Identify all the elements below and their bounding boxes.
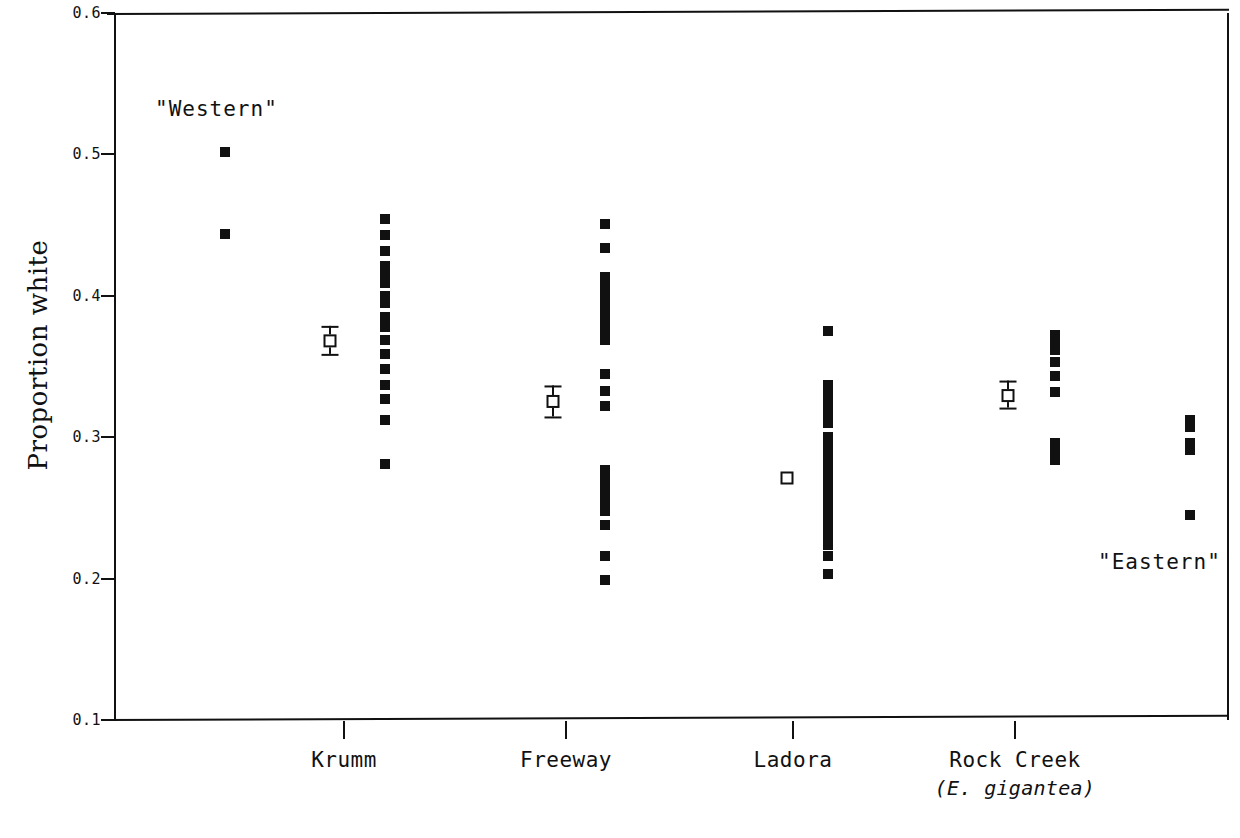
- y-tick-mark: [101, 719, 115, 721]
- x-axis-line: [107, 715, 1229, 721]
- data-point: [380, 459, 390, 469]
- data-point: [600, 369, 610, 379]
- plot-right-border: [1227, 13, 1229, 720]
- y-tick-label-wrap: 0.5: [0, 145, 101, 163]
- data-point: [600, 401, 610, 411]
- chart-figure: Proportion white 0.60.50.40.30.20.1 Krum…: [0, 0, 1240, 838]
- mean-marker-krumm: [320, 326, 340, 356]
- y-tick-label-wrap: 0.3: [0, 428, 101, 446]
- mean-marker-ladora: [777, 468, 797, 488]
- data-point: [380, 335, 390, 345]
- x-tick-label-text: Ladora: [754, 748, 833, 772]
- x-tick-label-rock-creek: Rock Creek(E. gigantea): [935, 748, 1095, 800]
- data-point: [380, 364, 390, 374]
- data-point: [1050, 387, 1060, 397]
- data-point: [380, 214, 390, 224]
- eastern-label: "Eastern": [1098, 550, 1221, 574]
- data-point: [380, 415, 390, 425]
- x-tick-label-text: Rock Creek: [949, 748, 1080, 772]
- x-tick-mark: [1014, 721, 1016, 739]
- data-point: [380, 312, 390, 322]
- data-point: [600, 520, 610, 530]
- x-tick-label-ladora: Ladora: [754, 748, 833, 772]
- x-tick-mark: [565, 721, 567, 739]
- y-tick-label-wrap: 0.2: [0, 570, 101, 588]
- data-point: [600, 551, 610, 561]
- mean-square-marker: [781, 472, 794, 485]
- data-point: [380, 349, 390, 359]
- x-tick-mark: [343, 721, 345, 739]
- data-point: [1050, 455, 1060, 465]
- data-point: [1050, 445, 1060, 455]
- y-tick-label: 0.6: [43, 4, 101, 22]
- y-tick-label: 0.3: [43, 428, 101, 446]
- data-point: [823, 551, 833, 561]
- data-point: [600, 575, 610, 585]
- mean-marker-rock-creek: [998, 381, 1018, 410]
- y-tick-label: 0.2: [43, 570, 101, 588]
- data-point: [380, 278, 390, 288]
- data-point: [1050, 345, 1060, 355]
- data-point: [600, 335, 610, 345]
- y-tick-mark: [101, 295, 115, 297]
- x-tick-label-freeway: Freeway: [520, 748, 612, 772]
- data-point: [823, 326, 833, 336]
- data-point-western: [220, 229, 230, 239]
- y-tick-label: 0.1: [43, 711, 101, 729]
- error-bar-cap-bottom: [1000, 408, 1017, 410]
- y-tick-label-wrap: 0.1: [0, 711, 101, 729]
- data-point: [600, 219, 610, 229]
- x-tick-sublabel-species: (E. gigantea): [935, 776, 1095, 800]
- y-tick-label-wrap: 0.4: [0, 287, 101, 305]
- error-bar-cap-bottom: [322, 354, 339, 356]
- y-tick-label: 0.5: [43, 145, 101, 163]
- data-point: [380, 380, 390, 390]
- y-tick-mark: [101, 12, 115, 14]
- data-point: [380, 261, 390, 271]
- error-bar-cap-top: [545, 385, 562, 387]
- data-point: [823, 380, 833, 390]
- y-axis-line: [114, 13, 116, 721]
- data-point: [823, 540, 833, 550]
- y-tick-mark: [101, 153, 115, 155]
- western-label: "Western": [155, 97, 278, 121]
- mean-square-marker: [1002, 389, 1015, 402]
- data-point: [380, 322, 390, 332]
- y-tick-mark: [101, 436, 115, 438]
- data-point-western: [220, 147, 230, 157]
- mean-square-marker: [547, 395, 560, 408]
- x-tick-label-text: Krumm: [311, 748, 377, 772]
- data-point: [380, 246, 390, 256]
- y-tick-mark: [101, 578, 115, 580]
- data-point: [1185, 422, 1195, 432]
- error-bar-cap-top: [322, 326, 339, 328]
- plot-top-border: [107, 9, 1229, 15]
- data-point: [823, 569, 833, 579]
- y-tick-label: 0.4: [43, 287, 101, 305]
- data-point: [380, 230, 390, 240]
- data-point: [600, 506, 610, 516]
- data-point: [600, 243, 610, 253]
- error-bar-cap-top: [1000, 381, 1017, 383]
- mean-marker-freeway: [543, 385, 563, 418]
- x-tick-label-krumm: Krumm: [311, 748, 377, 772]
- data-point: [823, 418, 833, 428]
- data-point: [600, 386, 610, 396]
- data-point: [1185, 445, 1195, 455]
- y-tick-label-wrap: 0.6: [0, 4, 101, 22]
- x-tick-mark: [792, 721, 794, 739]
- error-bar-cap-bottom: [545, 416, 562, 418]
- x-tick-label-text: Freeway: [520, 748, 612, 772]
- data-point: [600, 281, 610, 291]
- data-point: [1050, 371, 1060, 381]
- data-point: [380, 298, 390, 308]
- data-point: [1185, 510, 1195, 520]
- data-point: [1050, 357, 1060, 367]
- mean-square-marker: [324, 335, 337, 348]
- data-point: [380, 394, 390, 404]
